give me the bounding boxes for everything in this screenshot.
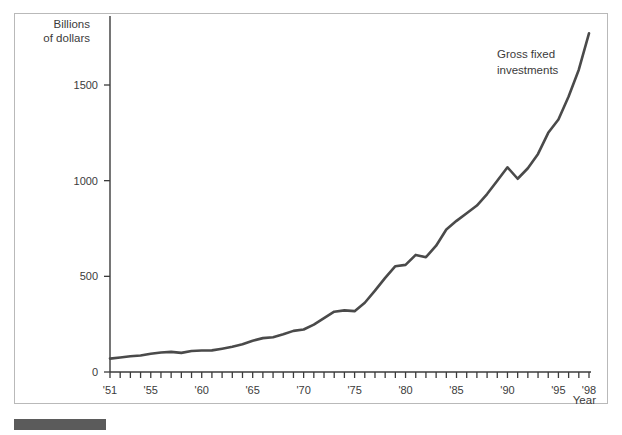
y-axis-ticks [104, 85, 110, 372]
series-line-gross-fixed-investments [110, 33, 589, 358]
y-axis-label-line2: of dollars [43, 32, 90, 44]
x-axis-tick-label: '65 [246, 384, 260, 396]
x-axis-tick-label: '90 [500, 384, 514, 396]
x-axis-tick-labels: '51'55'60'65'70'75'80'85'90'95'98 [103, 384, 596, 396]
x-axis-label: Year [573, 394, 596, 406]
y-axis-tick-label: 1500 [74, 79, 98, 91]
x-axis-tick-label: '55 [144, 384, 158, 396]
y-axis-tick-label: 1000 [74, 175, 98, 187]
x-axis-tick-label: '51 [103, 384, 117, 396]
x-axis-tick-label: '95 [551, 384, 565, 396]
y-axis-tick-label: 0 [92, 366, 98, 378]
x-axis-tick-label: '60 [195, 384, 209, 396]
line-chart: 050010001500 '51'55'60'65'70'75'80'85'90… [0, 0, 622, 435]
caption-bar [14, 419, 106, 430]
x-axis-tick-label: '85 [449, 384, 463, 396]
x-axis-tick-label: '80 [398, 384, 412, 396]
x-axis-tick-label: '70 [296, 384, 310, 396]
figure-container: 050010001500 '51'55'60'65'70'75'80'85'90… [0, 0, 622, 435]
x-axis-ticks [110, 372, 589, 378]
y-axis-label-line1: Billions [54, 18, 91, 30]
series-annotation-line1: Gross fixed [497, 48, 555, 60]
y-axis-tick-label: 500 [80, 270, 98, 282]
y-axis-tick-labels: 050010001500 [74, 79, 98, 378]
series-annotation-line2: investments [497, 64, 559, 76]
x-axis-tick-label: '75 [347, 384, 361, 396]
